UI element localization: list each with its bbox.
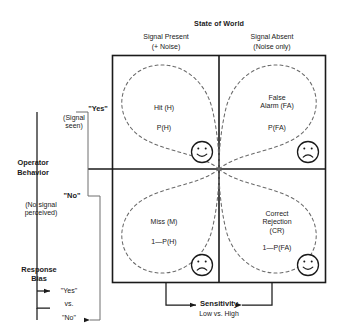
row-label-yes: "Yes": [88, 104, 108, 113]
cell-hit-probability: P(H): [157, 124, 171, 132]
cell-false-alarm-title: False Alarm (FA): [260, 94, 293, 111]
operator-behavior-label-line1: Operator: [17, 158, 48, 167]
response-bias-connector: vs.: [65, 300, 74, 308]
row-label-no-detail: (No signal perceived): [10, 201, 72, 218]
column-header-signal-present-line1: Signal Present: [143, 33, 189, 41]
operator-behavior-label-line2: Behavior: [17, 168, 49, 177]
column-header-signal-absent-line2: (Noise only): [253, 43, 290, 51]
diagram-title: State of World: [194, 20, 244, 28]
frowny-face-false-alarm: [298, 142, 319, 163]
cell-correct-rejection-title: Correct Rejection (CR): [262, 210, 291, 235]
sensitivity-arrow-left: [166, 282, 196, 305]
no-row-connector: [88, 169, 100, 196]
cell-correct-rejection-probability: 1—P(FA): [263, 244, 292, 252]
signal-detection-matrix-diagram: State of World Signal Present (+ Noise) …: [0, 0, 339, 333]
cell-miss-probability: 1—P(H): [151, 238, 176, 246]
cell-miss-title: Miss (M): [151, 218, 178, 226]
sensitivity-sublabel: Low vs. High: [199, 310, 238, 318]
frowny-face-miss: [192, 255, 213, 276]
row-label-yes-detail: (Signal seen): [50, 114, 98, 131]
response-bias-option-yes: "Yes": [61, 287, 77, 295]
cell-hit-title: Hit (H): [154, 104, 174, 112]
column-header-signal-absent-line1: Signal Absent: [251, 33, 294, 41]
smiley-face-hit: [192, 142, 213, 163]
sensitivity-label: Sensitivity: [200, 300, 238, 309]
column-header-signal-present-line2: (+ Noise): [152, 43, 181, 51]
response-bias-arrow-no: [90, 196, 100, 320]
response-bias-option-no: "No": [62, 314, 76, 322]
smiley-face-correct-rejection: [298, 255, 319, 276]
response-bias-label: Response Bias: [9, 265, 69, 283]
row-label-no: "No": [64, 191, 81, 200]
cell-false-alarm-probability: P(FA): [268, 124, 286, 132]
sensitivity-arrow-right: [242, 282, 272, 305]
